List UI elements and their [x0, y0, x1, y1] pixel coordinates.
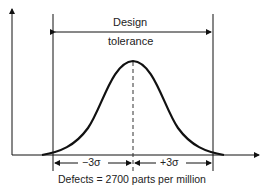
- tolerance-label: tolerance: [108, 35, 153, 47]
- design-label: Design: [113, 16, 147, 28]
- defects-caption: Defects = 2700 parts per million: [0, 173, 264, 185]
- minus-3-sigma-label: −3σ: [80, 156, 102, 168]
- normal-distribution-diagram: [0, 0, 264, 187]
- plus-3-sigma-label: +3σ: [158, 156, 180, 168]
